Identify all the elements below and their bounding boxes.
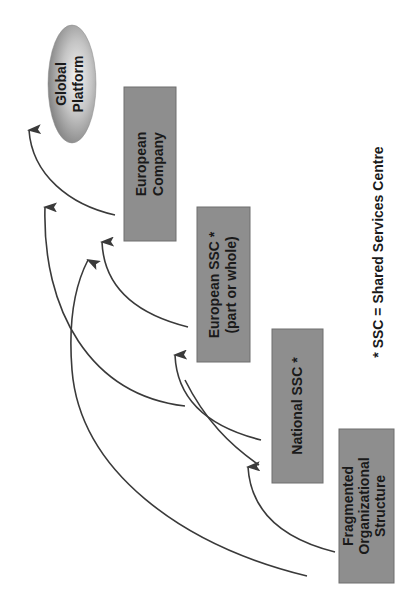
- european-ssc-label-line2: (part or whole): [223, 236, 239, 333]
- node-national-ssc: National SSC *: [272, 329, 323, 483]
- node-european-ssc: European SSC * (part or whole): [197, 207, 250, 362]
- european-company-label-line1: European: [133, 132, 149, 197]
- node-global-platform: Global Platform: [48, 25, 96, 143]
- global-platform-label-line2: Platform: [70, 56, 86, 113]
- arrow-national-ssc-to-european-ssc: [175, 355, 261, 440]
- node-fragmented-structure: Fragmented Organizational Structure: [339, 429, 394, 583]
- footnote-ssc-definition: * SSC = Shared Services Centre: [370, 146, 386, 357]
- european-company-label-line2: Company: [150, 132, 166, 196]
- fragmented-label-line2: Organizational: [356, 457, 372, 554]
- european-ssc-label-line1: European SSC *: [206, 231, 222, 338]
- migration-path-diagram: Global Platform European Company Europea…: [0, 0, 416, 614]
- global-platform-label-line1: Global: [53, 62, 69, 106]
- arrow-european-ssc-to-european-company: [102, 242, 188, 327]
- national-ssc-label: National SSC *: [289, 357, 305, 455]
- fragmented-label-line3: Structure: [372, 475, 388, 537]
- arrow-european-ssc-to-global: [185, 380, 259, 465]
- fragmented-label-line1: Fragmented: [340, 466, 356, 546]
- node-european-company: European Company: [124, 87, 176, 241]
